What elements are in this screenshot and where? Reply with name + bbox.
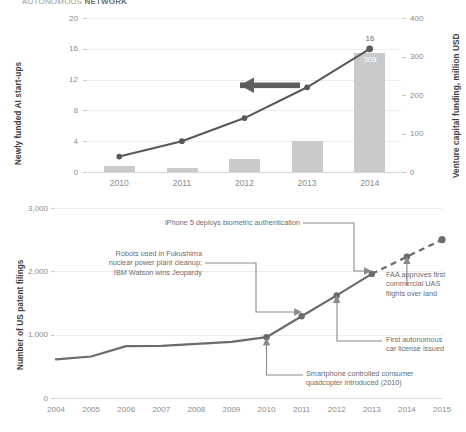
bottom-tickmark-3000 [51, 208, 55, 209]
top-right-tickmark-400 [402, 18, 406, 19]
bottom-xtick-2013: 2013 [354, 405, 390, 414]
top-left-tickmark-4 [83, 141, 87, 142]
annotation-quadcopter: Smartphone controlled consumer quadcopte… [306, 369, 466, 388]
top-y2tick-100: 100 [410, 129, 423, 138]
top-right-tickmark-300 [402, 57, 406, 58]
top-chart-baseline [88, 172, 401, 173]
top-ytick-0: 0 [54, 168, 78, 177]
top-ytick-12: 12 [54, 75, 78, 84]
top-xtick-2013: 2013 [282, 178, 332, 188]
chart-us-patent-filings: Number of US patent filings 3,000 2,000 … [0, 200, 458, 432]
top-ytick-4: 4 [54, 137, 78, 146]
top-right-tickmark-0 [402, 172, 406, 173]
bottom-xtick-2004: 2004 [38, 405, 74, 414]
top-left-tickmark-0 [83, 172, 87, 173]
arrowhead-fukushima [294, 308, 302, 315]
bottom-ytick-3000: 3,000 [8, 204, 48, 213]
chart-ai-startups-funding: Newly funded AI start-ups Venture capita… [0, 0, 458, 200]
top-chart-y-axis-title: Newly funded AI start-ups [14, 62, 23, 165]
top-right-tickmark-200 [402, 95, 406, 96]
leader-iphone5 [303, 223, 367, 271]
bottom-chart-baseline [56, 398, 442, 399]
bottom-xtick-2012: 2012 [319, 405, 355, 414]
leader-fukushima [205, 263, 297, 312]
arrowhead-quadcopter [263, 338, 270, 346]
arrowhead-faa [403, 256, 410, 264]
bottom-tickmark-1000 [51, 335, 55, 336]
top-right-tickmark-100 [402, 134, 406, 135]
top-y2tick-400: 400 [410, 14, 423, 23]
annotation-iphone5: iPhone 5 deploys biometric authenticatio… [116, 218, 300, 227]
annotation-fukushima: Robots used in Fukushima nuclear power p… [71, 249, 202, 277]
bottom-xtick-2006: 2006 [108, 405, 144, 414]
annotation-faa-uas: FAA approves first commercial UAS flight… [386, 270, 466, 298]
top-left-tickmark-20 [83, 18, 87, 19]
top-xtick-2011: 2011 [157, 178, 207, 188]
annotation-autonomous-car: First autonomous car license issued [386, 335, 466, 354]
bottom-xtick-2014: 2014 [389, 405, 425, 414]
bottom-xtick-2009: 2009 [213, 405, 249, 414]
top-xtick-2014: 2014 [345, 178, 395, 188]
top-ytick-16: 16 [54, 44, 78, 53]
top-y2tick-0: 0 [410, 168, 414, 177]
bottom-ytick-1000: 1,000 [8, 330, 48, 339]
arrowhead-autonomous-car [333, 295, 340, 303]
leader-autonomous-car [337, 300, 382, 341]
bottom-xtick-2015: 2015 [424, 405, 460, 414]
top-chart-plot-area: 20 16 12 8 4 0 400 300 200 100 0 [88, 18, 401, 172]
bottom-tickmark-0 [51, 398, 55, 399]
bottom-xtick-2010: 2010 [249, 405, 285, 414]
top-xtick-2010: 2010 [94, 178, 144, 188]
bottom-chart-plot-area: 3,000 2,000 1,000 0 [56, 208, 442, 398]
top-y2tick-200: 200 [410, 91, 423, 100]
top-ytick-8: 8 [54, 106, 78, 115]
top-chart-y2-axis-title: Venture capital funding, million USD [452, 33, 461, 178]
bottom-chart-y-axis-title: Number of US patent filings [16, 259, 25, 370]
top-y2tick-300: 300 [410, 52, 423, 61]
leader-quadcopter [267, 342, 304, 375]
top-left-tickmark-8 [83, 110, 87, 111]
top-ytick-20: 20 [54, 14, 78, 23]
bottom-xtick-2011: 2011 [284, 405, 320, 414]
bottom-xtick-2007: 2007 [143, 405, 179, 414]
top-left-tickmark-16 [83, 49, 87, 50]
bottom-xtick-2008: 2008 [178, 405, 214, 414]
bottom-ytick-0: 0 [8, 394, 48, 403]
axis-link-arrow-icon [88, 18, 401, 172]
top-left-tickmark-12 [83, 80, 87, 81]
arrowhead-iphone5 [364, 267, 372, 274]
bottom-tickmark-2000 [51, 271, 55, 272]
bottom-xtick-2005: 2005 [73, 405, 109, 414]
top-xtick-2012: 2012 [220, 178, 270, 188]
bottom-ytick-2000: 2,000 [8, 267, 48, 276]
